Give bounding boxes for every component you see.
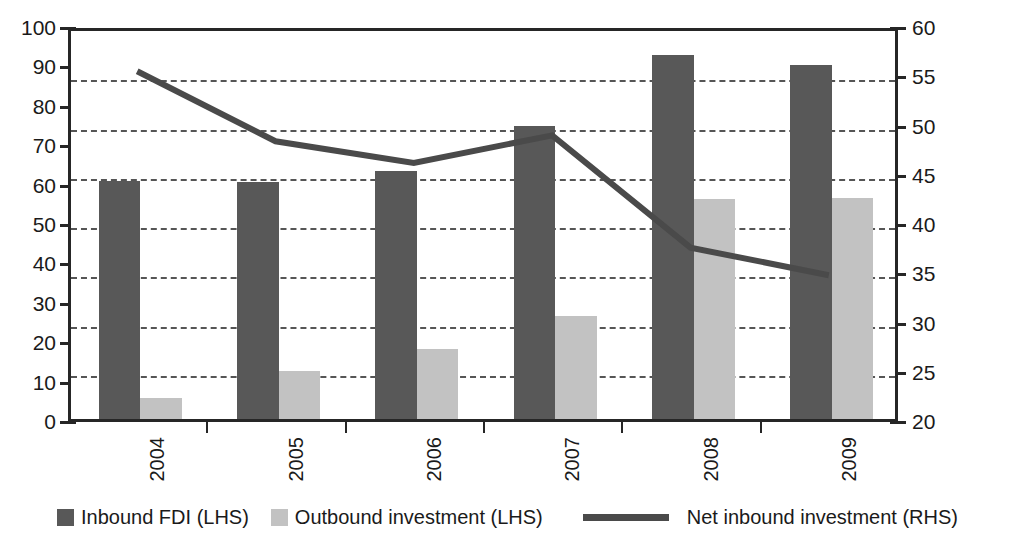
plot-area: [68, 28, 898, 422]
left-axis: 0102030405060708090100: [0, 0, 56, 547]
square-light-swatch-icon: [271, 509, 288, 526]
right-axis-tick-label: 50: [912, 116, 935, 137]
bar: [279, 371, 321, 419]
left-axis-tick-label: 90: [33, 56, 56, 77]
legend-label-net-inbound-investment: Net inbound investment (RHS): [687, 507, 958, 527]
x-axis-category-label: 2005: [286, 437, 306, 482]
x-axis-category-label: 2006: [424, 437, 444, 482]
bar: [832, 198, 874, 419]
x-axis-tick-mark: [621, 422, 623, 433]
x-axis-tick-mark: [206, 422, 208, 433]
gridline: [71, 179, 895, 181]
legend-label-outbound-investment: Outbound investment (LHS): [295, 507, 543, 527]
x-axis-category-label: 2008: [701, 437, 721, 482]
bar: [555, 316, 597, 419]
x-axis-category-label: 2004: [147, 437, 167, 482]
line-swatch-icon: [583, 514, 669, 521]
bar: [514, 126, 556, 419]
x-axis-tick-mark: [483, 422, 485, 433]
right-axis-tick-label: 30: [912, 313, 935, 334]
left-axis-tick-label: 60: [33, 175, 56, 196]
legend-item-net-inbound-investment: Net inbound investment (RHS): [583, 507, 958, 527]
gridline: [71, 130, 895, 132]
gridline: [71, 277, 895, 279]
bar: [99, 181, 141, 419]
chart-container: 0102030405060708090100 20253035404550556…: [0, 0, 1015, 547]
gridline: [71, 80, 895, 82]
bar: [652, 55, 694, 419]
bar: [375, 171, 417, 419]
gridline: [71, 228, 895, 230]
legend-item-outbound-investment: Outbound investment (LHS): [271, 507, 543, 527]
left-axis-tick-label: 80: [33, 96, 56, 117]
left-axis-tick-label: 0: [44, 411, 56, 432]
x-axis-tick-mark: [760, 422, 762, 433]
left-axis-tick-label: 100: [21, 17, 56, 38]
left-axis-tick-label: 30: [33, 293, 56, 314]
right-axis-tick-label: 60: [912, 17, 935, 38]
left-axis-tick-label: 10: [33, 372, 56, 393]
gridline: [71, 327, 895, 329]
right-axis-tick-label: 55: [912, 66, 935, 87]
bar: [237, 182, 279, 419]
bar: [140, 398, 182, 419]
x-axis-category-label: 2007: [562, 437, 582, 482]
right-axis-tick-label: 45: [912, 165, 935, 186]
right-axis-tick-label: 25: [912, 362, 935, 383]
left-axis-tick-label: 70: [33, 135, 56, 156]
right-axis-tick-label: 35: [912, 263, 935, 284]
bar: [694, 199, 736, 419]
bar: [417, 349, 459, 419]
right-axis: 202530354045505560: [912, 0, 992, 547]
chart-legend: Inbound FDI (LHS) Outbound investment (L…: [0, 507, 1015, 527]
bar: [790, 65, 832, 419]
right-axis-tick-label: 20: [912, 411, 935, 432]
left-axis-tick-label: 40: [33, 253, 56, 274]
left-axis-tick-label: 20: [33, 332, 56, 353]
right-axis-tick-label: 40: [912, 214, 935, 235]
x-axis-category-label: 2009: [839, 437, 859, 482]
gridline: [71, 376, 895, 378]
left-axis-tick-label: 50: [33, 214, 56, 235]
x-axis-tick-mark: [345, 422, 347, 433]
legend-label-inbound-fdi: Inbound FDI (LHS): [81, 507, 249, 527]
square-dark-swatch-icon: [57, 509, 74, 526]
legend-item-inbound-fdi: Inbound FDI (LHS): [57, 507, 249, 527]
